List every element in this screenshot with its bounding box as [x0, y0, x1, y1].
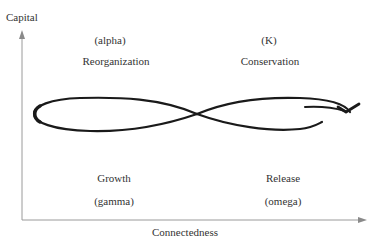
release-label: Release	[266, 172, 300, 185]
y-axis-label: Capital	[6, 11, 38, 24]
x-axis-arrow-icon	[358, 217, 367, 223]
y-axis	[19, 30, 25, 220]
y-axis-arrow-icon	[19, 30, 25, 39]
release-symbol: (omega)	[265, 195, 302, 208]
conservation-label: Conservation	[241, 55, 300, 68]
x-axis-label: Connectedness	[152, 226, 218, 239]
adaptive-cycle-diagram	[0, 0, 387, 245]
growth-label: Growth	[97, 172, 131, 185]
reorganization-label: Reorganization	[83, 55, 150, 68]
reorganization-symbol: (alpha)	[94, 34, 125, 47]
infinity-loop	[34, 98, 350, 131]
x-axis	[22, 217, 367, 223]
conservation-symbol: (K)	[261, 34, 276, 47]
growth-symbol: (gamma)	[94, 195, 134, 208]
